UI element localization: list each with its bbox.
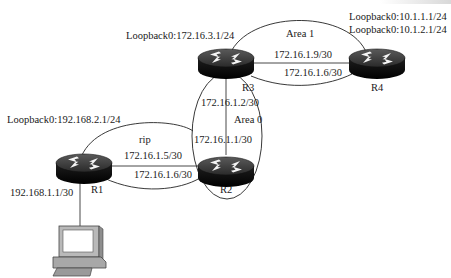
pc-icon — [53, 226, 106, 276]
r3-label: R3 — [242, 82, 254, 94]
r1-r2-link-label-b: 172.16.1.6/30 — [134, 169, 192, 181]
r4-loopback-label-1: Loopback0:10.1.1.1/24 — [349, 11, 447, 23]
router-r3 — [198, 49, 254, 79]
router-r4 — [349, 49, 405, 79]
r1-label: R1 — [91, 184, 103, 196]
r1-loopback-label: Loopback0:192.168.2.1/24 — [7, 114, 120, 126]
r4-loopback-label-2: Loopback0:10.1.2.1/24 — [349, 24, 447, 36]
router-r1 — [56, 154, 112, 184]
area1-label: Area 1 — [286, 28, 314, 40]
r3-r4-link-label-b: 172.16.1.6/30 — [284, 67, 342, 79]
r3-r2-link-label-r3side: 172.16.1.2/30 — [201, 97, 259, 109]
r4-label: R4 — [371, 82, 383, 94]
r3-r4-link-label-a: 172.16.1.9/30 — [274, 49, 332, 61]
r1-pc-link-label: 192.168.1.1/30 — [10, 187, 73, 199]
r3-loopback-label: Loopback0:172.16.3.1/24 — [126, 30, 234, 42]
router-r2 — [198, 157, 254, 187]
rip-label: rip — [139, 134, 151, 146]
r3-r2-link-label-r2side: 172.16.1.1/30 — [194, 134, 252, 146]
r2-label: R2 — [220, 184, 232, 196]
r1-r2-link-label-a: 172.16.1.5/30 — [124, 150, 182, 162]
area0-label: Area 0 — [234, 114, 262, 126]
